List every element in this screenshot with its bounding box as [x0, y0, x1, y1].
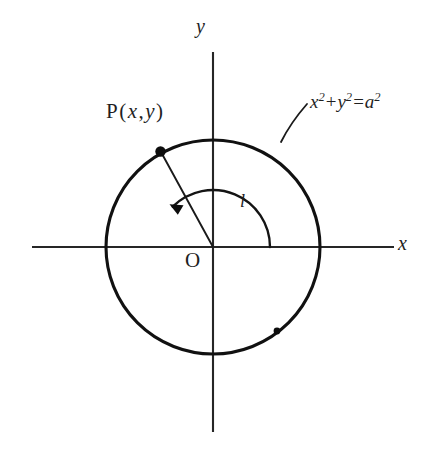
point-p-coord-x: x [128, 99, 138, 123]
arc-arrowhead-icon [170, 204, 184, 215]
point-p-close-paren: ) [155, 99, 165, 123]
origin-label: O [185, 250, 200, 271]
equation-y-base: y [337, 91, 345, 112]
figure-root: y x O P(x,y) x2+y2=a2 l [0, 0, 431, 455]
radius-segment-op [161, 152, 213, 247]
circle-diagram-svg [0, 0, 431, 455]
arc-length-label: l [240, 192, 245, 210]
equation-a-base: a [365, 91, 375, 112]
point-p-prefix: P [106, 99, 118, 123]
circle-equation-label: x2+y2=a2 [310, 91, 381, 111]
point-p-open-paren: ( [118, 99, 128, 123]
point-p-dot [155, 146, 165, 156]
point-p-label: P(x,y) [106, 101, 165, 122]
equation-a-exponent: 2 [374, 90, 380, 104]
point-p-coord-y: y [145, 99, 155, 123]
equation-equals-sign: = [352, 91, 365, 112]
equation-x-exponent: 2 [318, 90, 324, 104]
equation-leader-line [281, 104, 307, 142]
equation-plus-sign: + [325, 91, 338, 112]
x-axis-label: x [398, 233, 407, 253]
y-axis-label: y [196, 16, 205, 36]
secondary-arc-dot [274, 328, 281, 335]
